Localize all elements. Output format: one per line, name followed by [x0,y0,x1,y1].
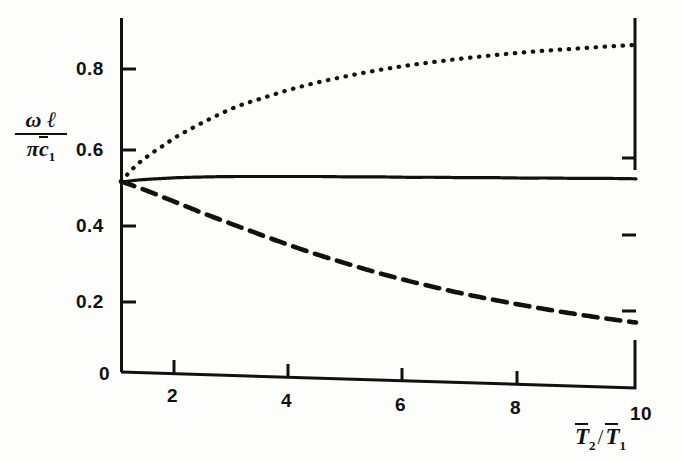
y-axis-label-denominator: πc1 [8,137,74,164]
chart-figure: 0.8 0.6 0.4 0.2 0 2 4 6 8 10 ω ℓ πc1 T2/… [0,0,682,462]
y-tick-label-0.4: 0.4 [76,215,104,237]
slash-symbol: / [596,425,606,449]
overbar [605,423,618,425]
c-bar-symbol: c [39,137,49,160]
y-tick-label-0.8: 0.8 [76,58,104,80]
x-tick-label-8: 8 [510,397,521,419]
t2-symbol: T [575,424,589,449]
omega-symbol: ω [26,107,42,132]
y-tick-label-0: 0 [99,363,110,385]
x-tick-label-4: 4 [281,390,292,412]
x-tick-label-6: 6 [395,394,406,416]
x-axis-label: T2/T1 [575,424,626,454]
c-subscript: 1 [49,149,56,164]
x-axis-line [121,372,636,388]
y-tick-marks-right [622,158,636,311]
ell-symbol: ℓ [47,107,56,132]
overbar [575,423,588,425]
y-axis-label-numerator: ω ℓ [8,108,74,131]
c-symbol: c [39,136,49,161]
x-tick-label-10: 10 [630,403,652,425]
x-tick-label-2: 2 [167,385,178,407]
y-axis-label: ω ℓ πc1 [8,108,74,164]
t1-symbol: T [605,424,619,449]
fraction-bar [15,133,67,135]
t2-bar-symbol: T [575,424,589,450]
series-middle-branch-solid [121,176,636,182]
axes [121,18,636,389]
y-tick-label-0.6: 0.6 [76,139,104,161]
t2-subscript: 2 [589,438,596,453]
series-lower-branch-dashed [121,181,636,322]
pi-symbol: π [27,136,39,161]
overbar [39,136,48,138]
y-tick-label-0.2: 0.2 [76,291,104,313]
series-upper-branch-dotted [121,45,636,181]
data-curves [121,45,636,323]
t1-subscript: 1 [619,438,626,453]
t1-bar-symbol: T [605,424,619,450]
